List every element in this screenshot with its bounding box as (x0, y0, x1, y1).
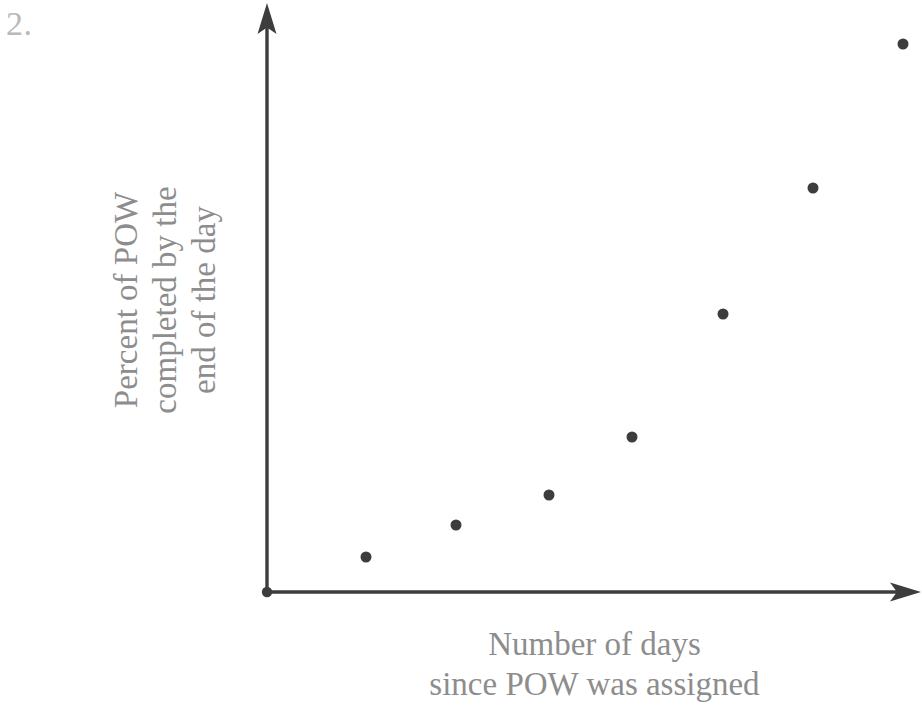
data-point (361, 552, 372, 563)
data-point (898, 39, 909, 50)
data-point (544, 490, 555, 501)
data-point (808, 183, 819, 194)
data-point (627, 432, 638, 443)
data-point-layer (0, 0, 922, 721)
data-point (718, 309, 729, 320)
data-point (451, 520, 462, 531)
scatter-plot-figure: 2. Percent of POW completed by the end o… (0, 0, 922, 721)
